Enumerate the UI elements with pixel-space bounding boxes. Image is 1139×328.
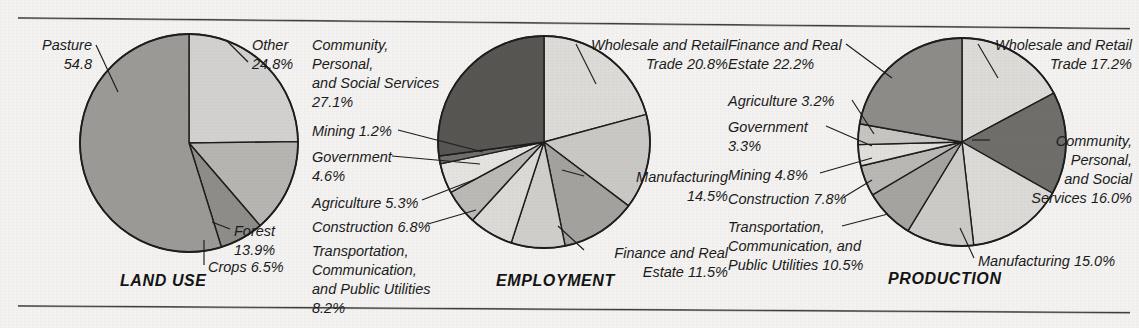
pie-slice bbox=[438, 36, 544, 156]
label-manufacturing: Manufacturing 15.0% bbox=[978, 252, 1138, 271]
label-finance-real-estate: Finance and Real Estate 22.2% bbox=[728, 36, 850, 74]
chart-title-production: PRODUCTION bbox=[888, 270, 1002, 288]
chart-title-land-use: LAND USE bbox=[120, 272, 207, 290]
label-construction: Construction 7.8% bbox=[728, 190, 858, 209]
chart-panel-employment: Community, Personal, and Social Services… bbox=[300, 0, 740, 328]
chart-panel-production: Finance and Real Estate 22.2% Agricultur… bbox=[720, 0, 1139, 328]
chart-title-employment: EMPLOYMENT bbox=[496, 272, 615, 290]
label-mining: Mining 4.8% bbox=[728, 166, 838, 185]
label-transportation-communication-utilities: Transportation, Communication, and Publi… bbox=[728, 218, 888, 275]
label-wholesale-retail-trade: Wholesale and Retail Trade 20.8% bbox=[568, 36, 728, 74]
label-government: Government 3.3% bbox=[728, 118, 838, 156]
label-transportation-communication-utilities: Transportation, Communication, and Publi… bbox=[312, 242, 492, 318]
figure-pie-chart-panel: Pasture 54.8 Other 24.8% Forest 13.9% Cr… bbox=[0, 0, 1139, 328]
label-community-personal-social: Community, Personal, and Social Services… bbox=[312, 36, 444, 112]
chart-panel-land-use: Pasture 54.8 Other 24.8% Forest 13.9% Cr… bbox=[0, 0, 320, 328]
label-community-personal-social: Community, Personal, and Social Services… bbox=[994, 132, 1132, 208]
label-construction: Construction 6.8% bbox=[312, 218, 446, 237]
label-pasture: Pasture 54.8 bbox=[16, 36, 92, 74]
label-manufacturing: Manufacturing 14.5% bbox=[588, 168, 728, 206]
pie-slice bbox=[860, 38, 962, 142]
label-agriculture: Agriculture 3.2% bbox=[728, 92, 860, 111]
label-wholesale-retail-trade: Wholesale and Retail Trade 17.2% bbox=[972, 36, 1132, 74]
label-agriculture: Agriculture 5.3% bbox=[312, 194, 442, 213]
label-government: Government 4.6% bbox=[312, 148, 404, 186]
label-mining: Mining 1.2% bbox=[312, 122, 404, 141]
